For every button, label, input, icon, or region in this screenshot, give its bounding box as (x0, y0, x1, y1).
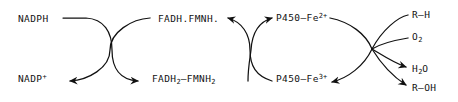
reaction-cycle-arrows (0, 0, 458, 102)
arrow-nadph-to-flavin-oxidized (63, 18, 138, 81)
arrow-flavin-reduced-to-nadp-plus (70, 18, 150, 81)
label-water-o: O (422, 63, 428, 74)
arrow-product-roh-output (372, 49, 406, 85)
label-nadp-plus: NADP+ (18, 74, 47, 84)
label-nadph: NADPH (18, 14, 49, 24)
label-water: H2O (412, 64, 428, 76)
label-oxygen: O2 (412, 32, 422, 44)
arrow-water-output (372, 49, 406, 67)
label-substrate-rh: R–H (412, 10, 430, 20)
label-flavin-reduced: FADH2–FMNH2 (152, 74, 216, 86)
arrow-p450-ferric-to-flavin-oxidized (248, 18, 272, 81)
label-p450-ferric: P450–Fe3+ (276, 74, 327, 84)
label-p450-ferric-charge: 3+ (319, 73, 327, 81)
label-flavin-reduced-fadh: FADH (152, 73, 176, 84)
label-product-roh: R–OH (412, 83, 436, 93)
label-p450-ferrous-base: P450–Fe (276, 12, 319, 23)
label-p450-ferrous-charge: 2+ (319, 12, 327, 20)
label-p450-ferric-base: P450–Fe (276, 73, 319, 84)
line-fan-node-to-p450-ferric (332, 49, 372, 82)
label-oxygen-sub: 2 (418, 36, 422, 44)
arrow-flavin-reduced-to-p450-ferrous (228, 18, 272, 81)
diagram-canvas: NADPH NADP+ FADH.FMNH. FADH2–FMNH2 P450–… (0, 0, 458, 102)
label-flavin-reduced-fmnh: –FMNH (181, 73, 212, 84)
line-p450-ferrous-to-fan-node (330, 18, 372, 49)
label-p450-ferrous: P450–Fe2+ (276, 13, 327, 23)
line-substrate-rh-input (372, 15, 408, 49)
label-flavin-oxidized: FADH.FMNH. (158, 14, 219, 24)
label-nadp-plus-charge: + (42, 73, 46, 81)
label-flavin-reduced-fmnh-sub: 2 (211, 78, 215, 86)
label-nadp-plus-base: NADP (18, 73, 42, 84)
